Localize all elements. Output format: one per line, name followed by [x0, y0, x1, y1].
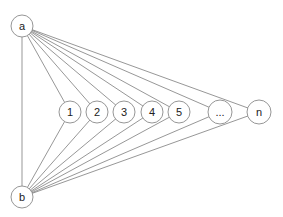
node-2: 2 — [86, 101, 108, 123]
edge-a-2 — [22, 26, 97, 112]
node-b: b — [11, 186, 33, 208]
edge-b-2 — [22, 112, 97, 197]
edge-a-4 — [22, 26, 152, 112]
edge-a-5 — [22, 26, 179, 112]
node-5-label: 5 — [176, 106, 182, 118]
node-2-label: 2 — [94, 106, 100, 118]
node-3: 3 — [113, 101, 135, 123]
node-ellipsis-label: ... — [215, 106, 224, 118]
edge-b-6 — [22, 112, 220, 197]
edge-b-5 — [22, 112, 179, 197]
node-n: n — [247, 100, 271, 124]
edge-b-3 — [22, 112, 124, 197]
edge-b-4 — [22, 112, 152, 197]
node-4: 4 — [141, 101, 163, 123]
node-n-label: n — [256, 106, 262, 118]
edge-a-6 — [22, 26, 220, 112]
node-3-label: 3 — [121, 106, 127, 118]
graph-diagram: ab12345...n — [0, 0, 283, 217]
node-5: 5 — [168, 101, 190, 123]
node-b-label: b — [19, 191, 25, 203]
node-1: 1 — [59, 101, 81, 123]
edge-a-3 — [22, 26, 124, 112]
edge-a-7 — [22, 26, 259, 112]
node-ellipsis: ... — [208, 100, 232, 124]
node-1-label: 1 — [67, 106, 73, 118]
edge-b-7 — [22, 112, 259, 197]
node-4-label: 4 — [149, 106, 155, 118]
node-a-label: a — [19, 20, 26, 32]
node-a: a — [11, 15, 33, 37]
